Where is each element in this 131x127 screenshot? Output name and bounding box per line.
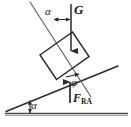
- label-weight-vector-g: G: [74, 3, 83, 16]
- label-alpha-base: α: [31, 100, 37, 111]
- diagram-canvas: [0, 0, 131, 127]
- label-reaction-force-symbol: F: [73, 91, 81, 105]
- label-phi: φ: [71, 77, 77, 88]
- inclined-plane-diagram: α G φ FRA α: [0, 0, 131, 127]
- label-alpha-top: α: [45, 6, 51, 17]
- incline-surface-line: [6, 66, 118, 112]
- label-reaction-force: FRA: [73, 92, 92, 104]
- ground-line: [5, 114, 128, 116]
- label-reaction-force-subscript: RA: [81, 97, 92, 106]
